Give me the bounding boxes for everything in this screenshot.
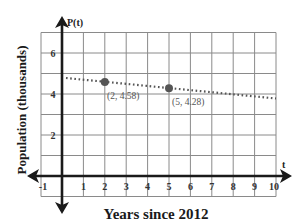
data-point-2	[165, 84, 173, 92]
x-tick-10: 10	[269, 181, 279, 192]
data-point-1-label: (2, 4.58)	[107, 91, 139, 102]
x-tick-m1: -1	[39, 181, 47, 192]
x-tick-9: 9	[252, 181, 257, 192]
x-tick-1: 1	[81, 181, 86, 192]
grid	[41, 33, 276, 197]
x-axis-title: Years since 2012	[104, 206, 209, 222]
x-tick-2: 2	[102, 181, 107, 192]
y-axis-title: Population (thousands)	[14, 46, 29, 175]
data-point-2-label: (5, 4.28)	[172, 97, 204, 108]
x-tick-4: 4	[145, 181, 150, 192]
x-tick-6: 6	[188, 181, 193, 192]
y-tick-6: 6	[51, 48, 56, 59]
x-tick-7: 7	[209, 181, 214, 192]
x-axis-variable: t	[282, 159, 286, 170]
x-tick-5: 5	[167, 181, 172, 192]
y-tick-2: 2	[51, 130, 56, 141]
data-point-1	[101, 78, 109, 86]
x-tick-3: 3	[124, 181, 129, 192]
population-chart: P(t) t 6 4 2 -1 1 2 3 4 5 6 7 8 9 10 (2,…	[0, 0, 301, 224]
y-tick-4: 4	[51, 89, 56, 100]
x-tick-8: 8	[231, 181, 236, 192]
y-axis-variable: P(t)	[67, 17, 83, 29]
